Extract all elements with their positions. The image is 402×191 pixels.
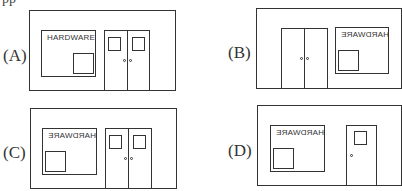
window-pane [338,50,359,71]
door-window [354,131,367,145]
storefront-b: HARDWARE [256,8,402,89]
storefront-d: HARDWARE [257,105,402,186]
double-door [105,128,152,189]
hardware-sign: HARDWARE [47,33,95,42]
door-window-right [132,37,145,51]
door-knob [350,154,353,157]
door-knob-right [129,59,132,62]
option-label: (B) [228,43,251,63]
door-knob-right [306,57,309,60]
option-label: (D) [228,141,252,161]
door-window-right [133,135,146,149]
door-window-left [109,135,122,149]
window-pane [73,53,94,74]
window-pane [45,151,66,172]
option-label: (C) [3,143,26,163]
hardware-sign-mirrored: HARDWARE [341,30,389,39]
cut-off-header-text: pp [2,0,16,7]
hardware-sign-mirrored: HARDWARE [276,128,324,137]
display-window: HARDWARE [42,128,97,175]
single-door [346,125,377,186]
door-split-line [128,129,129,189]
door-window-left [108,37,121,51]
double-door [104,30,150,91]
door-knob-left [300,57,303,60]
double-door [281,28,328,89]
door-knob-left [123,59,126,62]
door-knob-left [124,157,127,160]
display-window: HARDWARE [335,27,389,74]
door-split-line [127,31,128,91]
storefront-c: HARDWARE [30,108,177,189]
display-window: HARDWARE [41,30,96,77]
door-split-line [304,29,305,89]
storefront-a: HARDWARE [29,10,176,91]
door-knob-right [130,157,133,160]
option-label: (A) [3,46,27,66]
window-pane [273,148,294,169]
display-window: HARDWARE [270,125,325,172]
hardware-sign-mirrored: HARDWARE [48,131,96,140]
